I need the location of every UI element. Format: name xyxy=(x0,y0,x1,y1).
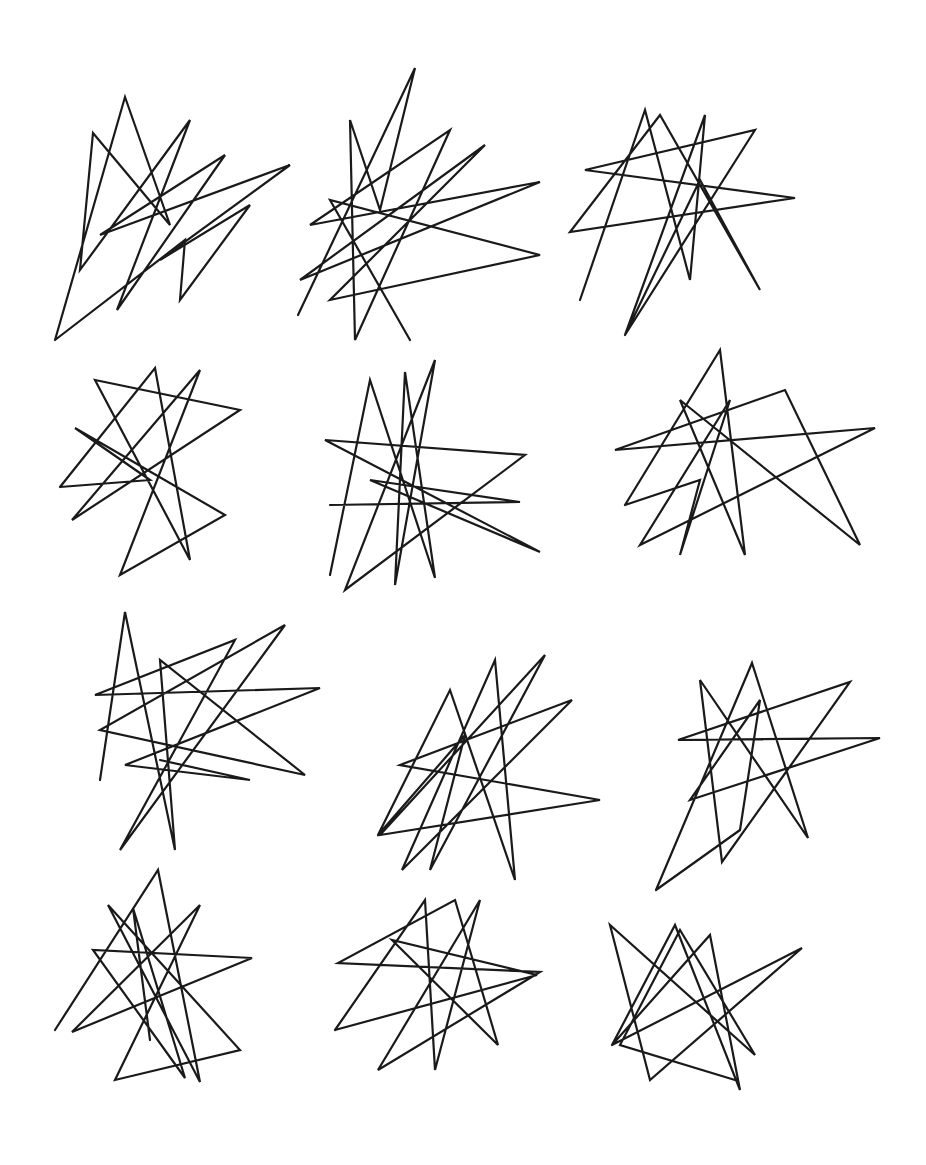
scribble-star xyxy=(55,97,290,340)
scribble-stars xyxy=(0,0,926,1165)
scribble-star xyxy=(95,612,320,850)
scribble-star xyxy=(378,655,600,880)
scribble-star xyxy=(298,68,540,340)
scribble-star xyxy=(570,110,795,335)
scribble-star xyxy=(325,360,540,590)
scribble-star xyxy=(335,900,540,1070)
scribble-star xyxy=(60,368,240,575)
scribble-star xyxy=(610,925,802,1090)
scribble-star xyxy=(615,350,875,555)
drawing-canvas xyxy=(0,0,926,1165)
scribble-star xyxy=(55,870,252,1082)
scribble-star xyxy=(656,663,880,890)
